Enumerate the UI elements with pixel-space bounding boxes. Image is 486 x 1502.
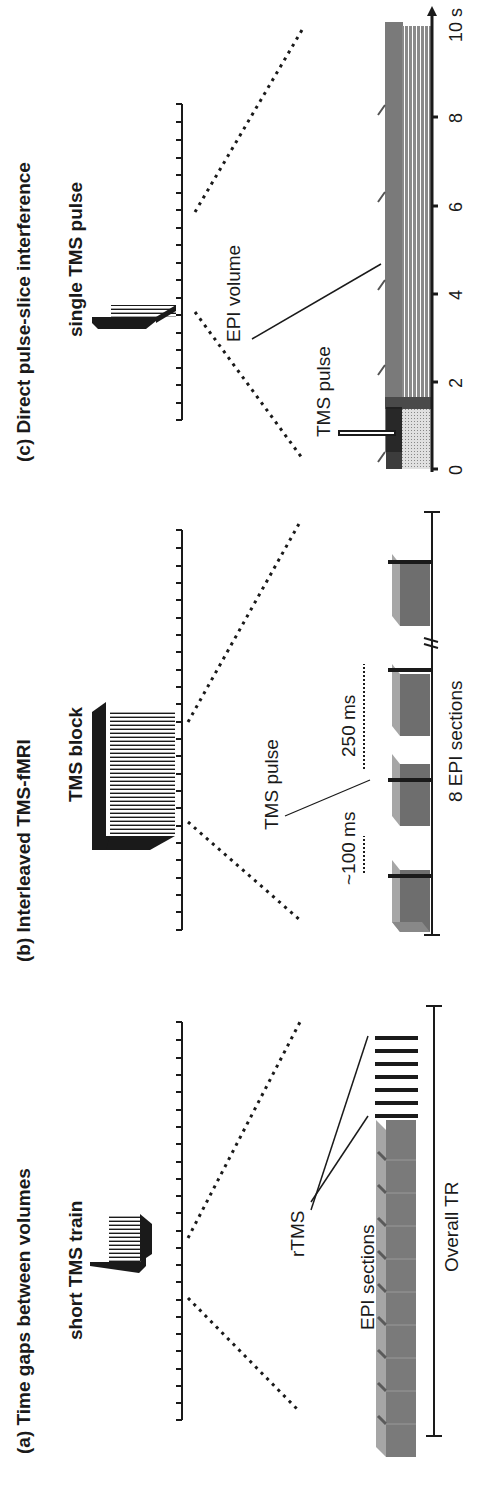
epi-section-block xyxy=(392,754,430,826)
gap-250ms-label: 250 ms xyxy=(338,695,359,757)
gap-100ms-label: ~100 ms xyxy=(338,812,359,885)
epi-section-block xyxy=(392,860,430,932)
epi-sections-count-label: 8 EPI sections xyxy=(445,681,466,802)
figure-rotated: (a) Time gaps between volumes short TMS … xyxy=(0,0,486,1502)
epi-volume-label: EPI volume xyxy=(223,245,244,342)
axis-tick-10s: 10 s xyxy=(446,8,466,42)
single-tms-pulse-icon xyxy=(92,305,176,329)
short-tms-train-icon xyxy=(90,1214,152,1273)
tms-block-icon xyxy=(92,702,175,850)
tms-pulse-pointer xyxy=(285,780,370,816)
panel-b-title: (b) Interleaved TMS-fMRI xyxy=(13,739,34,962)
panel-c-title: (c) Direct pulse-slice interference xyxy=(13,162,34,462)
panel-b-timeline xyxy=(176,530,182,930)
panel-c-timeline xyxy=(176,104,182,420)
panel-a: (a) Time gaps between volumes short TMS … xyxy=(13,1006,462,1457)
tms-pulse-stem-icon xyxy=(338,430,396,436)
axis-tick-4: 4 xyxy=(446,290,466,300)
zoom-guide-right xyxy=(188,1022,300,1238)
panel-a-stimulus-label: short TMS train xyxy=(65,1201,86,1340)
zoom-guide-right xyxy=(195,30,302,212)
epi-section-block xyxy=(392,554,430,626)
axis-tick-2: 2 xyxy=(446,378,466,388)
panel-a-timeline xyxy=(176,1022,182,1420)
panel-c-stimulus-label: single TMS pulse xyxy=(65,182,86,337)
overall-tr-label: Overall TR xyxy=(441,1182,462,1272)
epi-volume-bar xyxy=(378,6,437,472)
panel-b: (b) Interleaved TMS-fMRI TMS block TMS p… xyxy=(13,512,466,962)
zoom-guide-left xyxy=(188,822,300,920)
interleaved-sequence xyxy=(388,512,440,935)
panel-c: (c) Direct pulse-slice interference sing… xyxy=(13,6,466,475)
panel-b-stimulus-label: TMS block xyxy=(65,707,86,802)
rtms-pulses xyxy=(375,1038,418,1116)
zoom-guide-right xyxy=(188,522,300,722)
tms-pulse-label: TMS pulse xyxy=(313,346,334,437)
zoom-guide-left xyxy=(195,312,302,458)
epi-volume-pointer xyxy=(252,264,381,339)
rtms-pointer-2 xyxy=(311,1036,368,1210)
axis-tick-8: 8 xyxy=(446,113,466,123)
rtms-label: rTMS xyxy=(287,1211,308,1257)
epi-sections-row xyxy=(376,1120,416,1457)
epi-sections-label: EPI sections xyxy=(357,1224,378,1330)
rtms-pointer-1 xyxy=(311,1116,368,1202)
overall-tr-bracket xyxy=(426,1006,442,1436)
zoom-guide-left xyxy=(188,1298,300,1412)
panel-a-title: (a) Time gaps between volumes xyxy=(13,1168,34,1454)
axis-tick-0: 0 xyxy=(446,465,466,475)
axis-tick-6: 6 xyxy=(446,202,466,212)
tms-pulse-label: TMS pulse xyxy=(261,739,282,830)
epi-section-block xyxy=(392,664,430,736)
